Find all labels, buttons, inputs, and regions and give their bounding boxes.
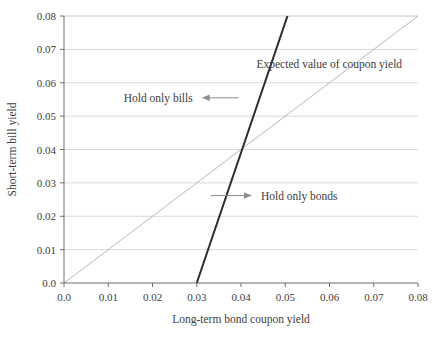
chart-figure: 0.00.010.020.030.040.050.060.070.080.00.… (0, 0, 437, 344)
y-tick-label-2: 0.02 (37, 210, 56, 222)
expected-value-label: Expected value of coupon yield (256, 58, 402, 71)
x-tick-label-0: 0.0 (57, 291, 71, 303)
y-tick-label-5: 0.05 (37, 110, 57, 122)
x-tick-label-6: 0.06 (320, 291, 340, 303)
hold-only-bills-label: Hold only bills (124, 92, 194, 105)
x-tick-label-8: 0.08 (408, 291, 428, 303)
x-tick-label-1: 0.01 (99, 291, 118, 303)
x-axis-title: Long-term bond coupon yield (172, 313, 310, 326)
y-tick-label-3: 0.03 (37, 177, 57, 189)
x-tick-label-3: 0.03 (187, 291, 207, 303)
y-tick-label-7: 0.07 (37, 43, 57, 55)
chart-canvas: 0.00.010.020.030.040.050.060.070.080.00.… (0, 0, 437, 344)
y-tick-label-8: 0.08 (37, 10, 57, 22)
y-tick-label-0: 0.0 (42, 277, 56, 289)
x-tick-label-7: 0.07 (364, 291, 384, 303)
y-axis-title: Short-term bill yield (6, 102, 19, 196)
x-tick-label-2: 0.02 (143, 291, 162, 303)
y-tick-label-1: 0.01 (37, 244, 56, 256)
y-tick-label-4: 0.04 (37, 144, 57, 156)
hold-only-bonds-label: Hold only bonds (261, 190, 338, 203)
x-tick-label-5: 0.05 (276, 291, 296, 303)
y-tick-label-6: 0.06 (37, 77, 57, 89)
x-tick-label-4: 0.04 (231, 291, 251, 303)
